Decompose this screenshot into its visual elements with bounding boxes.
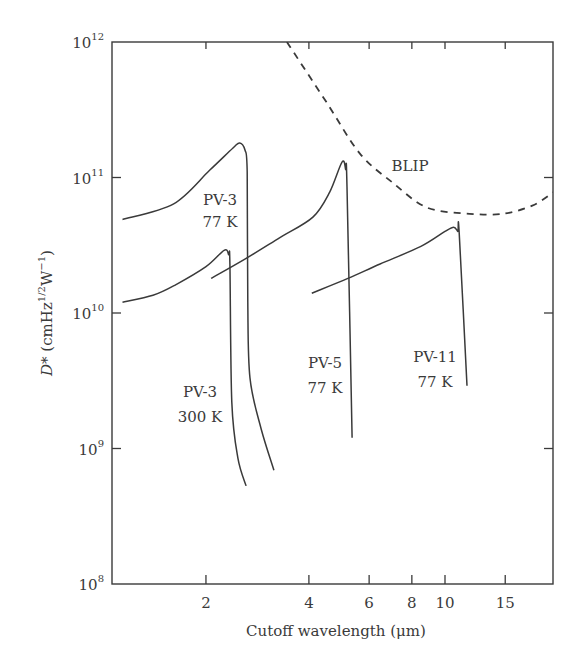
y-axis-label: D* (cmHz1/2W−1) xyxy=(36,250,56,377)
x-tick-label: 4 xyxy=(304,594,314,612)
curve-label: PV-3 xyxy=(183,383,217,401)
svg-text:D* (cmHz1/2W−1): D* (cmHz1/2W−1) xyxy=(36,250,56,377)
detectivity-chart: 24681015 108109101010111012 PV-377 KPV-3… xyxy=(0,0,580,671)
plot-frame xyxy=(112,42,553,584)
curve-label: PV-3 xyxy=(203,191,237,209)
curve-blip xyxy=(287,42,555,215)
curve-label: 77 K xyxy=(307,379,343,397)
y-tick-label: 1010 xyxy=(72,302,104,323)
x-axis-label: Cutoff wavelength (μm) xyxy=(246,622,426,640)
curve-label: BLIP xyxy=(391,157,428,175)
curve-label: 77 K xyxy=(417,373,453,391)
x-tick-label: 6 xyxy=(364,594,374,612)
curve-pv-3-300-k xyxy=(123,250,247,486)
y-tick-label: 108 xyxy=(79,573,104,594)
y-tick-label: 1012 xyxy=(72,31,104,52)
curve-label: PV-11 xyxy=(413,348,457,366)
y-tick-label: 109 xyxy=(79,438,104,459)
y-tick-label: 1011 xyxy=(72,167,104,188)
y-axis-ticks: 108109101010111012 xyxy=(72,31,553,594)
x-tick-label: 2 xyxy=(201,594,211,612)
curve-label: 77 K xyxy=(202,213,238,231)
curve-label: PV-5 xyxy=(308,354,342,372)
x-tick-label: 10 xyxy=(435,594,454,612)
x-tick-label: 15 xyxy=(496,594,515,612)
x-tick-label: 8 xyxy=(407,594,417,612)
curve-label: 300 K xyxy=(178,408,223,426)
